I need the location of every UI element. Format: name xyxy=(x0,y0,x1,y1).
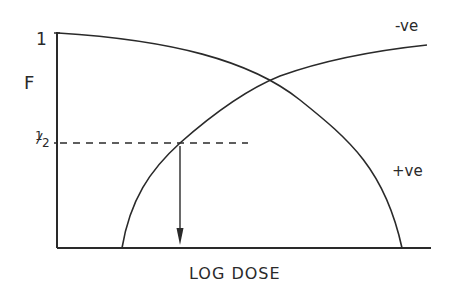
x-axis-label: LOG DOSE xyxy=(189,266,281,282)
y-tick-label-1: 1 xyxy=(36,31,47,48)
curve-negative xyxy=(122,45,427,248)
arrow-head-icon xyxy=(177,228,184,245)
dose-response-diagram: 1 F 1 / 2 -ve +ve LOG DOSE xyxy=(0,0,453,297)
y-axis-label: F xyxy=(24,74,34,92)
curve-positive-label: +ve xyxy=(392,164,423,179)
curve-positive xyxy=(58,33,402,248)
half-denominator: 2 xyxy=(42,137,50,149)
curve-negative-label: -ve xyxy=(395,19,418,34)
plot-area xyxy=(0,0,453,297)
